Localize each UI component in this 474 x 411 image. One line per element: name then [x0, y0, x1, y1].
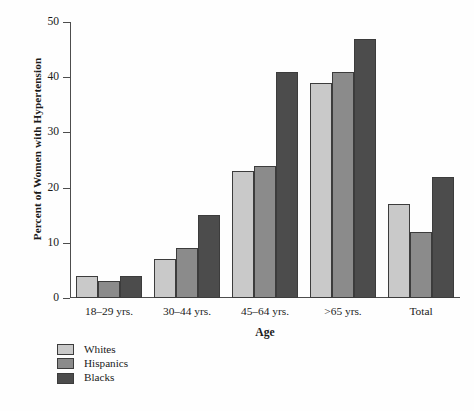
legend-label: Blacks [84, 372, 114, 383]
y-axis-tick [63, 22, 70, 23]
bar-set [232, 22, 298, 298]
y-axis-tick-label: 40 [47, 71, 59, 83]
legend: WhitesHispanicsBlacks [57, 344, 128, 387]
y-axis-tick [63, 298, 70, 299]
y-axis-tick-label: 20 [47, 182, 59, 194]
bar-blacks[interactable] [198, 215, 220, 298]
bar-group: Total [382, 22, 460, 298]
legend-item[interactable]: Hispanics [57, 358, 128, 369]
bar-whites[interactable] [154, 259, 176, 298]
legend-swatch-icon [57, 358, 74, 369]
y-axis-tick [63, 188, 70, 189]
bar-group: >65 yrs. [304, 22, 382, 298]
legend-label: Whites [84, 344, 116, 355]
bar-group: 45–64 yrs. [226, 22, 304, 298]
y-axis-tick [63, 132, 70, 133]
bar-blacks[interactable] [354, 39, 376, 298]
bar-set [154, 22, 220, 298]
y-axis-tick [63, 243, 70, 244]
bar-whites[interactable] [76, 276, 98, 298]
legend-label: Hispanics [84, 358, 128, 369]
bar-chart-figure: Percent of Women with Hypertension 01020… [0, 0, 474, 411]
bar-set [388, 22, 454, 298]
x-axis-category-label: 30–44 yrs. [163, 305, 211, 317]
bar-whites[interactable] [310, 83, 332, 298]
x-axis-title: Age [70, 326, 460, 339]
bar-hispanics[interactable] [176, 248, 198, 298]
bar-set [310, 22, 376, 298]
bar-blacks[interactable] [276, 72, 298, 298]
y-axis-tick-label: 0 [53, 292, 59, 304]
x-axis-category-label: >65 yrs. [324, 305, 361, 317]
plot-area: 01020304050 18–29 yrs.30–44 yrs.45–64 yr… [70, 22, 460, 298]
bar-hispanics[interactable] [332, 72, 354, 298]
bar-set [76, 22, 142, 298]
bar-hispanics[interactable] [98, 281, 120, 298]
bar-groups: 18–29 yrs.30–44 yrs.45–64 yrs.>65 yrs.To… [70, 22, 460, 298]
legend-item[interactable]: Whites [57, 344, 128, 355]
bar-hispanics[interactable] [254, 166, 276, 298]
bar-hispanics[interactable] [410, 232, 432, 298]
x-axis-category-label: 18–29 yrs. [85, 305, 133, 317]
bar-group: 18–29 yrs. [70, 22, 148, 298]
y-axis-tick-label: 10 [47, 237, 59, 249]
bar-whites[interactable] [388, 204, 410, 298]
legend-swatch-icon [57, 373, 74, 384]
bar-blacks[interactable] [120, 276, 142, 298]
legend-item[interactable]: Blacks [57, 372, 128, 383]
y-axis-tick-label: 50 [47, 16, 59, 28]
x-axis-category-label: Total [409, 305, 432, 317]
bar-whites[interactable] [232, 171, 254, 298]
bar-group: 30–44 yrs. [148, 22, 226, 298]
y-axis-title: Percent of Women with Hypertension [31, 19, 43, 279]
bar-blacks[interactable] [432, 177, 454, 298]
y-axis-tick [63, 77, 70, 78]
y-axis-tick-label: 30 [47, 127, 59, 139]
x-axis-category-label: 45–64 yrs. [241, 305, 289, 317]
legend-swatch-icon [57, 344, 74, 355]
